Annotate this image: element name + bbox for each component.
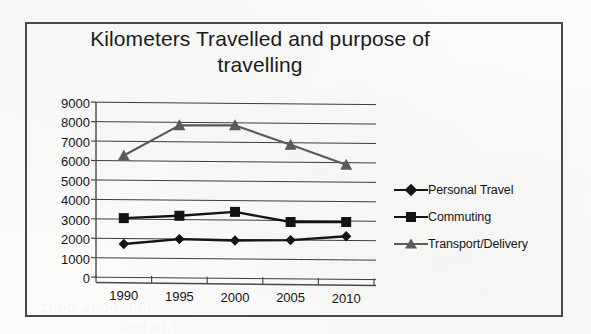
triangle-marker-icon xyxy=(394,237,428,251)
legend-item-transport-delivery[interactable]: Transport/Delivery xyxy=(394,230,564,257)
y-tick-label: 3000 xyxy=(61,213,90,226)
x-tick-label: 1995 xyxy=(165,289,194,304)
y-tick-label: 4000 xyxy=(61,194,90,207)
x-tick-label: 2000 xyxy=(221,290,250,305)
y-axis-tick-labels: 9000800070006000500040003000200010000 xyxy=(38,96,90,286)
y-tick-label: 2000 xyxy=(61,233,90,246)
square-marker-icon xyxy=(394,210,428,224)
y-tick-label: 1000 xyxy=(61,252,90,265)
chart-title: Kilometers Travelled and purpose of trav… xyxy=(45,26,475,78)
x-tick-label: 2010 xyxy=(332,291,361,306)
legend-label: Personal Travel xyxy=(428,183,513,197)
legend-item-personal-travel[interactable]: Personal Travel xyxy=(394,176,564,203)
chart-legend: Personal Travel Commuting Transport/Deli… xyxy=(394,176,564,257)
y-tick-label: 9000 xyxy=(61,97,90,110)
x-tick-label: 2005 xyxy=(276,290,305,305)
diamond-marker-icon xyxy=(394,183,428,197)
y-tick-label: 6000 xyxy=(61,155,90,168)
scan-ghost-text: and of to xyxy=(120,320,189,334)
y-tick-label: 7000 xyxy=(61,135,90,148)
y-tick-label: 0 xyxy=(83,272,90,285)
x-axis-tick-labels: 19901995200020052010 xyxy=(96,288,368,308)
y-tick-label: 5000 xyxy=(61,174,90,187)
x-tick-label: 1990 xyxy=(109,288,138,303)
legend-item-commuting[interactable]: Commuting xyxy=(394,203,564,230)
scanned-chart-page: 1000 2000 3000 the was in and of to Kilo… xyxy=(0,0,591,334)
legend-label: Transport/Delivery xyxy=(428,237,528,251)
legend-label: Commuting xyxy=(428,210,491,224)
y-tick-label: 8000 xyxy=(61,116,90,129)
